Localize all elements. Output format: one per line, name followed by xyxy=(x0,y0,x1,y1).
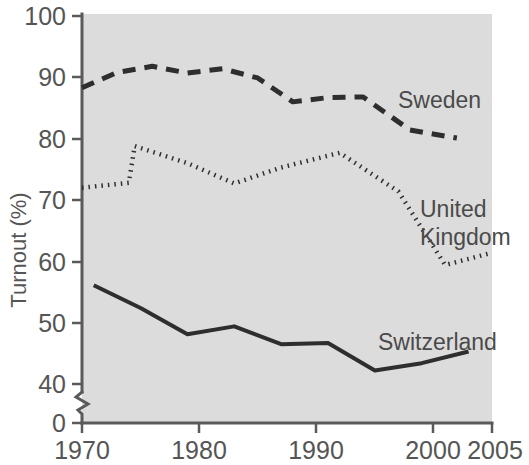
series-label-united-kingdom-line1: United xyxy=(420,196,486,222)
y-tick-label-0: 0 xyxy=(52,409,66,437)
series-label-united-kingdom-line2: Kingdom xyxy=(420,224,511,250)
y-tick-label-50: 50 xyxy=(38,309,66,337)
y-tick-label-70: 70 xyxy=(38,186,66,214)
y-tick-label-60: 60 xyxy=(38,248,66,276)
x-tick-label-1970: 1970 xyxy=(54,436,110,464)
x-tick-label-2000: 2000 xyxy=(405,436,461,464)
chart-canvas: 100 90 80 70 60 50 40 0 1970 1980 1990 2… xyxy=(0,0,529,465)
y-tick-label-100: 100 xyxy=(24,2,66,30)
y-tick-label-80: 80 xyxy=(38,125,66,153)
series-label-sweden: Sweden xyxy=(398,87,481,113)
y-tick-label-40: 40 xyxy=(38,370,66,398)
y-tick-label-90: 90 xyxy=(38,63,66,91)
series-label-switzerland: Switzerland xyxy=(378,329,497,355)
x-tick-label-1990: 1990 xyxy=(288,436,344,464)
turnout-line-chart: 100 90 80 70 60 50 40 0 1970 1980 1990 2… xyxy=(0,0,529,465)
x-tick-label-2005: 2005 xyxy=(467,436,523,464)
y-axis-title: Turnout (%) xyxy=(6,192,31,307)
x-tick-label-1980: 1980 xyxy=(171,436,227,464)
